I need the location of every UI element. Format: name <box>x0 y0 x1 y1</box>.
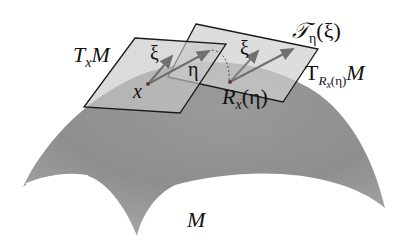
label-M: M <box>186 207 207 232</box>
label-xi-1: ξ <box>150 42 159 64</box>
label-x: x <box>132 80 142 102</box>
label-xi-2: ξ <box>240 37 249 59</box>
label-transport: 𝒯η(ξ) <box>292 18 341 46</box>
label-eta: η <box>188 58 198 81</box>
point-x <box>146 82 150 86</box>
label-TxM: TxM <box>73 42 111 70</box>
label-TRM: TRx(η)M <box>305 60 366 90</box>
label-R: Rx(η) <box>221 84 268 112</box>
manifold-diagram: TxM ξ η x ξ Rx(η) 𝒯η(ξ) TRx(η)M M <box>0 0 412 251</box>
